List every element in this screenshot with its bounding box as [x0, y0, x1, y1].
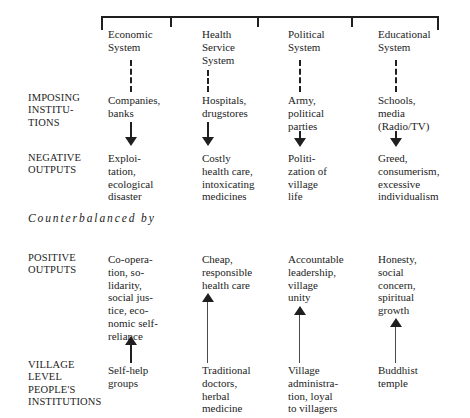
positive-output-health-service: Cheap, responsible health care	[202, 253, 284, 291]
imposing-institution-political: Army, political parties	[288, 94, 376, 132]
village-institution-health-service: Traditional doctors, herbal medicine	[202, 364, 286, 415]
dashed-connector-col4	[395, 60, 397, 92]
up-arrow-head-col4	[390, 318, 402, 327]
bracket-tick-2	[257, 16, 259, 27]
up-arrow-head-col3	[294, 306, 306, 315]
village-institution-political: Village administra- tion, loyal to villa…	[288, 364, 374, 415]
negative-output-educational: Greed, consumerism, excessive individual…	[378, 152, 470, 203]
bracket-tick-3	[351, 16, 353, 27]
negative-output-health-service: Costly health care, intoxicating medicin…	[202, 152, 290, 203]
bracket-tick-1	[170, 16, 172, 27]
imposing-institution-educational: Schools, media (Radio/TV)	[378, 94, 466, 132]
counterbalanced-by-text: Counterbalanced by	[28, 212, 156, 224]
dashed-connector-col2	[207, 70, 209, 92]
diagram-canvas: IMPOSING INSTITU- TIONS NEGATIVE OUTPUTS…	[0, 0, 470, 418]
down-arrow-head-col3	[294, 138, 306, 147]
down-arrow-head-col4	[390, 138, 402, 147]
village-institution-educational: Buddhist temple	[378, 364, 464, 390]
up-arrow-shaft-col4	[395, 327, 396, 363]
up-arrow-head-col2	[202, 293, 214, 302]
down-arrow-head-col2	[202, 137, 214, 146]
system-title-political: Political System	[288, 28, 372, 54]
row-label-village-institutions: VILLAGE LEVEL PEOPLE'S INSTITUTIONS	[28, 359, 98, 409]
positive-output-educational: Honesty, social concern, spiritual growt…	[378, 253, 460, 317]
negative-output-economic: Exploi- tation, ecological disaster	[108, 152, 196, 203]
row-label-negative-outputs: NEGATIVE OUTPUTS	[28, 152, 110, 177]
imposing-institution-health-service: Hospitals, drugstores	[202, 94, 290, 120]
system-title-health-service: Health Service System	[202, 28, 286, 66]
up-arrow-shaft-col3	[299, 315, 300, 363]
dashed-connector-col3	[299, 60, 301, 92]
up-arrow-head-col1	[125, 336, 137, 345]
up-arrow-shaft-col2	[207, 302, 208, 363]
village-institution-economic: Self-help groups	[108, 364, 192, 390]
down-arrow-head-col1	[125, 137, 137, 146]
bracket-tick-left-end	[101, 16, 103, 30]
system-title-economic: Economic System	[108, 28, 192, 54]
row-label-positive-outputs: POSITIVE OUTPUTS	[28, 252, 110, 277]
row-label-imposing-institutions: IMPOSING INSTITU- TIONS	[28, 92, 110, 129]
dashed-connector-col1	[130, 60, 132, 92]
positive-output-economic: Co-opera- tion, so- lidarity, social jus…	[108, 253, 180, 343]
positive-output-political: Accountable leadership, village unity	[288, 253, 374, 304]
up-arrow-shaft-col1	[130, 345, 132, 363]
imposing-institution-economic: Companies, banks	[108, 94, 196, 120]
system-title-educational: Educational System	[378, 28, 466, 54]
negative-output-political: Politi- zation of village life	[288, 152, 376, 203]
bracket-horizontal-bar	[101, 16, 439, 18]
